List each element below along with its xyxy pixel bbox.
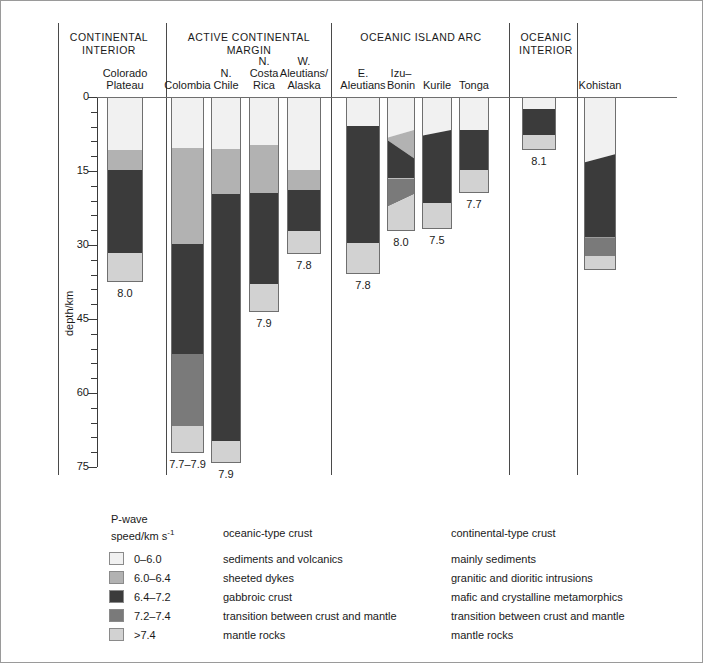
crust-column-colombia[interactable] bbox=[171, 97, 204, 453]
group-header-line1: CONTINENTAL bbox=[59, 31, 159, 44]
crust-layer-6.0-6.4 bbox=[288, 170, 320, 190]
y-tick-label: 30 bbox=[63, 238, 89, 250]
y-tick-label: 45 bbox=[63, 312, 89, 324]
crust-layer-6.4-7.2 bbox=[172, 244, 203, 354]
crust-layer-6.0-6.4 bbox=[172, 148, 203, 243]
crust-layer-6.4-7.2 bbox=[347, 126, 379, 242]
crust-layer->7.4 bbox=[172, 426, 203, 453]
column-label-w-aleutians-alaska: W.Aleutians/Alaska bbox=[270, 55, 338, 91]
y-axis-line bbox=[97, 97, 98, 467]
crust-column-n-chile[interactable] bbox=[211, 97, 241, 463]
y-tick-minor bbox=[91, 112, 97, 113]
y-tick-minor bbox=[91, 186, 97, 187]
y-tick-label: 15 bbox=[63, 164, 89, 176]
y-tick-minor bbox=[91, 215, 97, 216]
crust-layer->7.4 bbox=[250, 284, 278, 312]
pn-velocity-n-costa-rica: 7.9 bbox=[234, 317, 294, 329]
y-tick-label: 0 bbox=[63, 90, 89, 102]
crust-layer-6.0-6.4 bbox=[250, 145, 278, 192]
y-tick-minor bbox=[91, 334, 97, 335]
legend-oceanic-0: sediments and volcanics bbox=[223, 553, 343, 565]
legend-swatch-1 bbox=[109, 571, 124, 584]
column-label-tonga: Tonga bbox=[442, 79, 506, 91]
y-tick-major bbox=[88, 319, 97, 320]
separator-left bbox=[58, 23, 59, 475]
crust-column-kohistan[interactable] bbox=[584, 97, 616, 270]
y-tick-minor bbox=[91, 378, 97, 379]
separator-3 bbox=[509, 23, 510, 475]
crust-layer-0-6.0 bbox=[423, 98, 451, 135]
y-tick-minor bbox=[91, 127, 97, 128]
legend-speed-3: 7.2–7.4 bbox=[134, 610, 171, 622]
crust-layer->7.4 bbox=[108, 253, 142, 282]
crust-layer-0-6.0 bbox=[212, 98, 240, 149]
y-tick-minor bbox=[91, 304, 97, 305]
crust-layer-0-6.0 bbox=[460, 98, 488, 130]
legend-title: P-wave speed/km s-1 bbox=[111, 513, 174, 543]
crust-column-izu-bonin[interactable] bbox=[387, 97, 415, 231]
crust-layer-7.2-7.4 bbox=[172, 354, 203, 427]
crust-layer->7.4 bbox=[523, 135, 555, 150]
pn-velocity-tonga: 7.7 bbox=[444, 198, 504, 210]
group-header-continental-interior: CONTINENTAL INTERIOR bbox=[59, 31, 159, 56]
crust-layer-6.4-7.2 bbox=[585, 154, 615, 237]
crust-layer-6.0-6.4 bbox=[212, 149, 240, 194]
crust-column-oceanic-interior[interactable] bbox=[522, 97, 556, 150]
y-tick-label: 60 bbox=[63, 386, 89, 398]
y-tick-major bbox=[88, 393, 97, 394]
pn-velocity-oceanic-interior: 8.1 bbox=[509, 155, 569, 167]
legend-title-line1: P-wave bbox=[111, 513, 174, 526]
y-tick-minor bbox=[91, 201, 97, 202]
crust-layer-6.4-7.2 bbox=[108, 170, 142, 254]
y-tick-minor bbox=[91, 156, 97, 157]
legend-continental-2: mafic and crystalline metamorphics bbox=[451, 591, 623, 603]
pn-velocity-colorado-plateau: 8.0 bbox=[95, 287, 155, 299]
crust-layer->7.4 bbox=[460, 170, 488, 193]
column-label-line: W. bbox=[270, 55, 338, 67]
crust-column-n-costa-rica[interactable] bbox=[249, 97, 279, 312]
crust-column-colorado-plateau[interactable] bbox=[107, 97, 143, 282]
column-label-line: Colorado bbox=[90, 67, 160, 79]
legend-continental-0: mainly sediments bbox=[451, 553, 536, 565]
column-label-line: Alaska bbox=[270, 79, 338, 91]
crust-layer-6.4-7.2 bbox=[523, 109, 555, 135]
column-label-line: Plateau bbox=[90, 79, 160, 91]
legend-col-header-continental: continental-type crust bbox=[451, 527, 556, 539]
y-tick-major bbox=[88, 97, 97, 98]
y-tick-major bbox=[88, 467, 97, 468]
group-header-oceanic-interior: OCEANIC INTERIOR bbox=[513, 31, 579, 56]
group-header-line2: INTERIOR bbox=[513, 44, 579, 57]
y-tick-minor bbox=[91, 437, 97, 438]
legend-swatch-0 bbox=[109, 552, 124, 565]
crust-layer->7.4 bbox=[288, 231, 320, 254]
crust-layer-6.0-6.4 bbox=[108, 150, 142, 170]
crust-layer->7.4 bbox=[212, 441, 240, 463]
y-tick-minor bbox=[91, 230, 97, 231]
y-tick-minor bbox=[91, 408, 97, 409]
pn-velocity-w-aleutians-alaska: 7.8 bbox=[274, 259, 334, 271]
legend-swatch-2 bbox=[109, 590, 124, 603]
column-label-colorado-plateau: ColoradoPlateau bbox=[90, 67, 160, 91]
legend-speed-2: 6.4–7.2 bbox=[134, 591, 171, 603]
legend-continental-4: mantle rocks bbox=[451, 629, 513, 641]
y-tick-major bbox=[88, 171, 97, 172]
legend-swatch-4 bbox=[109, 628, 124, 641]
column-label-line: Kohistan bbox=[567, 79, 633, 91]
legend-title-exponent: -1 bbox=[167, 528, 174, 537]
figure-root: CONTINENTAL INTERIOR ACTIVE CONTINENTAL … bbox=[0, 0, 703, 663]
legend-continental-3: transition between crust and mantle bbox=[451, 610, 625, 622]
y-tick-minor bbox=[91, 275, 97, 276]
crust-layer-6.4-7.2 bbox=[288, 190, 320, 231]
legend-continental-1: granitic and dioritic intrusions bbox=[451, 572, 593, 584]
legend-speed-4: >7.4 bbox=[134, 629, 156, 641]
crust-layer-0-6.0 bbox=[108, 98, 142, 150]
crust-layer-0-6.0 bbox=[347, 98, 379, 126]
crust-column-w-aleutians-alaska[interactable] bbox=[287, 97, 321, 254]
crust-column-tonga[interactable] bbox=[459, 97, 489, 193]
y-tick-minor bbox=[91, 363, 97, 364]
legend-oceanic-2: gabbroic crust bbox=[223, 591, 292, 603]
legend-title-line2: speed/km s-1 bbox=[111, 526, 174, 543]
crust-layer-0-6.0 bbox=[172, 98, 203, 148]
pn-velocity-kurile: 7.5 bbox=[407, 234, 467, 246]
crust-layer-0-6.0 bbox=[250, 98, 278, 145]
